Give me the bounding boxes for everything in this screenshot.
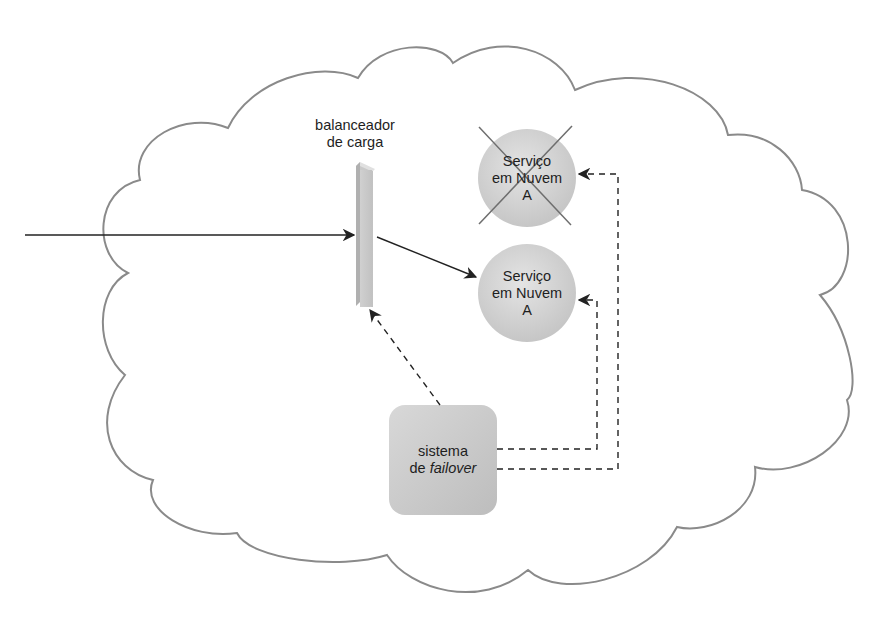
failover-label-line2: de failover [389, 460, 497, 477]
service-active-label-line1: Serviço [479, 268, 575, 285]
service-failed-label-line3: A [479, 187, 575, 204]
service-failed-label-line2: em Nuvem [479, 170, 575, 187]
load-balancer-label-line1: balanceador [290, 117, 420, 134]
service-active-label-line3: A [479, 302, 575, 319]
service-failed-label-line1: Serviço [479, 153, 575, 170]
load-balancer-label: balanceador de carga [290, 117, 420, 151]
service-failed-label: Serviço em Nuvem A [479, 153, 575, 204]
cloud-failover-diagram [0, 0, 878, 631]
failover-to-balancer-arrow [370, 310, 440, 405]
failover-label-line1: sistema [389, 443, 497, 460]
load-balancer-shape [356, 162, 375, 307]
failover-system-label: sistema de failover [389, 443, 497, 477]
service-active-label-line2: em Nuvem [479, 285, 575, 302]
balancer-to-service-arrow [377, 237, 476, 277]
failover-label-italic: failover [430, 460, 477, 476]
service-active-label: Serviço em Nuvem A [479, 268, 575, 319]
failover-label-prefix: de [410, 460, 430, 476]
load-balancer-label-line2: de carga [290, 134, 420, 151]
